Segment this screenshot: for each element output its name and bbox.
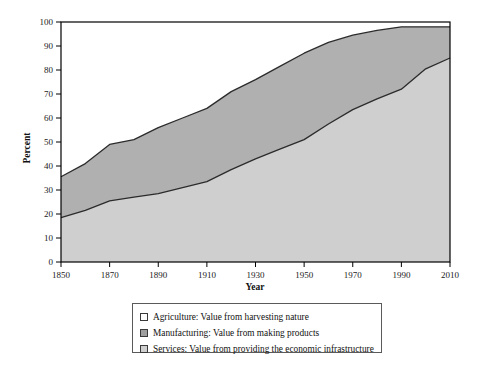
x-tick-label: 1950: [295, 270, 314, 280]
y-tick-label: 0: [49, 257, 54, 267]
y-tick-label: 10: [44, 233, 54, 243]
legend-swatch-icon: [140, 329, 148, 337]
y-tick-label: 30: [44, 185, 54, 195]
x-tick-label: 1850: [52, 270, 71, 280]
y-axis: 0102030405060708090100: [40, 17, 62, 267]
legend-item-1: Manufacturing: Value from making product…: [133, 326, 381, 340]
x-tick-label: 1910: [198, 270, 217, 280]
chart-figure: 0102030405060708090100 18501870189019101…: [0, 0, 482, 375]
legend-label: Services: Value from providing the econo…: [153, 344, 374, 355]
y-tick-label: 20: [44, 209, 54, 219]
legend-swatch-icon: [140, 345, 148, 353]
legend-item-0: Agriculture: Value from harvesting natur…: [133, 310, 381, 324]
y-tick-label: 60: [44, 113, 54, 123]
chart-legend: Agriculture: Value from harvesting natur…: [132, 303, 382, 353]
y-tick-label: 70: [44, 89, 54, 99]
x-tick-label: 1930: [247, 270, 266, 280]
y-tick-label: 80: [44, 65, 54, 75]
y-tick-label: 100: [40, 17, 54, 27]
y-tick-label: 50: [44, 137, 54, 147]
x-tick-label: 2010: [441, 270, 460, 280]
x-tick-label: 1990: [392, 270, 411, 280]
legend-label: Manufacturing: Value from making product…: [153, 328, 319, 339]
y-tick-label: 40: [44, 161, 54, 171]
x-tick-label: 1870: [101, 270, 120, 280]
legend-label: Agriculture: Value from harvesting natur…: [153, 312, 309, 323]
legend-item-2: Services: Value from providing the econo…: [133, 342, 381, 356]
y-axis-title: Percent: [22, 132, 32, 164]
legend-swatch-icon: [140, 313, 148, 321]
y-tick-label: 90: [44, 41, 54, 51]
x-axis-title: Year: [246, 282, 266, 292]
x-axis: 185018701890191019301950197019902010: [52, 262, 460, 280]
x-tick-label: 1890: [149, 270, 168, 280]
x-tick-label: 1970: [344, 270, 363, 280]
